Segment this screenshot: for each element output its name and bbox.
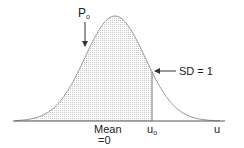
u0-label: uo — [147, 124, 157, 138]
p0-label: Po — [78, 8, 90, 22]
mean-value-label: =0 — [98, 135, 111, 146]
u-axis-label: u — [214, 124, 220, 135]
u0-label-sub: o — [153, 129, 157, 136]
p0-label-main: P — [78, 6, 86, 20]
p0-label-sub: o — [86, 13, 90, 20]
sd-label: SD = 1 — [179, 66, 213, 77]
shaded-area-p0 — [15, 16, 152, 121]
